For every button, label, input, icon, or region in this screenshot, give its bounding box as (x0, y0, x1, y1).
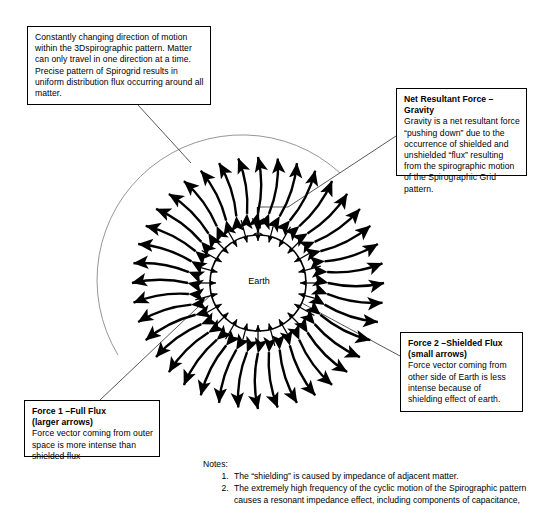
shielded-flux-arrow (288, 313, 304, 329)
notes-list: The “shielding” is caused by impedance o… (203, 471, 533, 506)
note-item: The extremely high frequency of the cycl… (231, 483, 533, 506)
full-flux-arrow (258, 157, 261, 213)
callout-net-resultant-force-body: Gravity is a net resultant force “pushin… (404, 116, 520, 194)
full-flux-arrow (201, 171, 226, 221)
callout-net-resultant-force[interactable]: Net Resultant Force – Gravity Gravity is… (396, 88, 527, 176)
earth-label: Earth (237, 276, 281, 286)
note-item: The “shielding” is caused by impedance o… (231, 471, 533, 482)
full-flux-arrow (280, 163, 297, 216)
notes-title: Notes: (203, 459, 533, 470)
callout-spirographic-motion-body: Constantly changing direction of motion … (35, 32, 204, 99)
callout-net-resultant-force-header: Net Resultant Force – Gravity (404, 94, 520, 116)
shielded-flux-arrow (212, 313, 228, 329)
callout-force-1-full-flux[interactable]: Force 1 –Full Flux (larger arrows) Force… (24, 400, 160, 457)
full-flux-arrow (146, 315, 196, 340)
full-flux-arrow (327, 294, 382, 303)
full-flux-arrow (255, 353, 258, 409)
full-flux-arrow (219, 350, 236, 403)
shielded-flux-arrow (212, 237, 228, 253)
full-flux-arrow (269, 352, 278, 407)
callout-force-2-header-line2: (small arrows) (408, 349, 516, 360)
full-flux-arrow (238, 352, 247, 407)
callout-force-2-header-line1: Force 2 –Shielded Flux (408, 338, 516, 349)
notes-section: Notes: The “shielding” is caused by impe… (203, 459, 533, 507)
full-flux-arrow (132, 280, 188, 283)
callout-force-1-header-line1: Force 1 –Full Flux (32, 406, 153, 417)
full-flux-arrow (269, 159, 278, 214)
full-flux-arrow (327, 263, 382, 272)
callout-force-1-header-line2: (larger arrows) (32, 417, 153, 428)
callout-spirographic-motion[interactable]: Constantly changing direction of motion … (27, 26, 211, 105)
callout-force-2-shielded-flux[interactable]: Force 2 –Shielded Flux (small arrows) Fo… (400, 332, 523, 412)
full-flux-arrow (134, 263, 189, 272)
shielded-flux-arrow (288, 237, 304, 253)
callout-force-2-body: Force vector coming from other side of E… (408, 360, 516, 405)
callout-force-1-body: Force vector coming from outer space is … (32, 428, 153, 462)
full-flux-arrow (138, 244, 191, 261)
diagram-canvas: Earth Constantly changing direction of m… (0, 0, 549, 529)
full-flux-arrow (290, 345, 315, 395)
full-flux-arrow (320, 226, 370, 251)
full-flux-arrow (328, 283, 384, 286)
full-flux-arrow (238, 159, 247, 214)
full-flux-arrow (134, 294, 189, 303)
